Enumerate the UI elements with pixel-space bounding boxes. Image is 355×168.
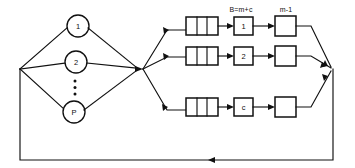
center-merge-arrowhead [135,66,143,72]
vertical-ellipsis [74,80,77,96]
service-box-row-3-label: c [242,103,246,112]
row-1-arrow-service-to-terminal [268,23,275,29]
row-3-arrow-queue-to-service [227,104,234,110]
split-arrowhead-row-2 [163,53,169,60]
source-node-2-label: 2 [74,58,78,67]
queueing-network-diagram: 1 2 P [0,0,355,168]
service-box-row-1-label: 1 [241,22,245,31]
queue-box-row-2 [186,47,218,65]
center-merge-group [84,28,143,110]
row-2-arrow-queue-to-service [227,53,234,59]
terminal-box-row-3 [275,97,296,117]
row-3: c [186,71,331,117]
source-node-1: 1 [67,15,89,37]
source-node-p: P [63,101,85,123]
row-2: 2 [186,46,331,68]
terminal-box-row-2 [275,46,296,66]
left-branch-group [20,27,68,110]
split-arrowhead-row-1 [163,27,169,34]
column-label-m-minus-1: m-1 [280,6,293,13]
feedback-arrowhead [208,157,215,163]
source-node-2: 2 [65,51,87,73]
row-1-arrow-queue-to-service [227,23,234,29]
queue-box-row-1 [186,17,218,35]
service-box-row-3: c [234,98,253,116]
diagram-canvas: 1 2 P [0,0,355,168]
source-node-p-label: P [71,108,76,117]
source-node-1-label: 1 [76,22,80,31]
row-2-arrow-service-to-terminal [268,53,275,59]
queue-box-row-3 [186,98,218,116]
row-3-arrow-service-to-terminal [268,104,275,110]
service-box-row-2: 2 [234,47,253,65]
service-box-row-1: 1 [234,17,253,35]
center-split-group [143,27,186,111]
column-label-b-m-c: B=m+c [229,6,252,13]
terminal-box-row-1 [275,16,296,36]
service-box-row-2-label: 2 [241,52,245,61]
